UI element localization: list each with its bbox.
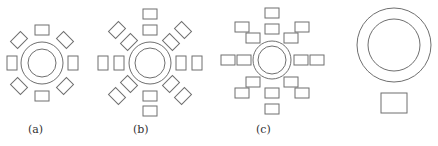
table-inner-ring	[258, 46, 286, 74]
table-inner-ring	[368, 19, 420, 71]
chair	[35, 25, 49, 35]
chair	[143, 91, 157, 101]
figure-a	[7, 25, 78, 101]
table-inner-ring	[135, 48, 165, 78]
chair	[143, 25, 157, 35]
chair	[35, 91, 49, 101]
chair	[11, 32, 28, 49]
chair	[284, 33, 298, 43]
chair	[175, 22, 192, 39]
chair	[235, 88, 249, 98]
chair	[57, 78, 74, 95]
chair	[246, 77, 260, 87]
chair	[237, 55, 251, 65]
table-inner-ring	[28, 49, 56, 77]
figure-label-b: (b)	[133, 123, 149, 136]
chair	[98, 56, 108, 70]
figure-c	[221, 8, 324, 114]
chair	[295, 22, 309, 32]
figure-b	[98, 9, 202, 116]
chair	[68, 56, 78, 70]
chair	[143, 106, 157, 116]
chair	[176, 56, 186, 70]
chair	[175, 88, 192, 105]
chair	[235, 22, 249, 32]
chair	[294, 55, 308, 65]
chair	[221, 55, 235, 65]
figure-label-c: (c)	[256, 123, 271, 136]
chair	[265, 104, 279, 114]
chair	[109, 88, 126, 105]
chair	[11, 78, 28, 95]
chair	[381, 93, 407, 113]
chair	[143, 9, 157, 19]
chair	[57, 32, 74, 49]
chair	[265, 8, 279, 18]
chair	[265, 88, 279, 98]
table-outer-ring	[21, 42, 63, 84]
chair	[114, 56, 124, 70]
chair	[295, 88, 309, 98]
chair	[310, 55, 324, 65]
figure-d	[357, 8, 431, 113]
chair	[192, 56, 202, 70]
chair	[109, 22, 126, 39]
chair	[265, 24, 279, 34]
chair	[246, 33, 260, 43]
table-outer-ring	[253, 41, 291, 79]
chair	[284, 77, 298, 87]
figure-label-a: (a)	[28, 123, 43, 136]
chair	[7, 56, 17, 70]
seating-diagram	[0, 0, 438, 146]
